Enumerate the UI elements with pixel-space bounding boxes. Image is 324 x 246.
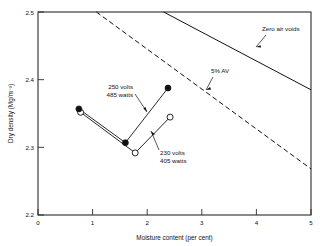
figure-container: 0 1 2 3 4 5 2.2 2.3 2.4 2.5 Moisture con… bbox=[0, 0, 324, 246]
x-tick-label: 3 bbox=[200, 219, 204, 226]
x-tick-labels: 0 1 2 3 4 5 bbox=[36, 219, 313, 226]
y-tick-label: 2.2 bbox=[25, 211, 34, 218]
annotation-250v-line1: 250 volts bbox=[108, 83, 133, 90]
x-tick-label: 2 bbox=[145, 219, 149, 226]
chart-svg: 0 1 2 3 4 5 2.2 2.3 2.4 2.5 Moisture con… bbox=[0, 0, 324, 246]
x-axis-title: Moisture content (per cent) bbox=[136, 234, 212, 242]
x-tick-label: 5 bbox=[309, 219, 313, 226]
data-point-filled bbox=[76, 106, 82, 112]
data-point-filled bbox=[165, 85, 171, 91]
data-point-filled bbox=[122, 140, 128, 146]
annotation-5av-text: 5% AV bbox=[211, 67, 230, 74]
series-230v-line bbox=[81, 112, 171, 153]
y-axis-title: Dry density (Mg/m⁻³) bbox=[7, 84, 15, 143]
x-tick-label: 0 bbox=[36, 219, 40, 226]
annotation-zero-air-voids: Zero air voids bbox=[256, 25, 299, 48]
annotation-230v: 230 volts 405 watts bbox=[151, 131, 186, 164]
annotation-250v: 250 volts 485 watts bbox=[107, 83, 147, 112]
x-axis-ticks bbox=[38, 209, 311, 215]
x-tick-label: 1 bbox=[91, 219, 95, 226]
annotation-five-percent-av: 5% AV bbox=[206, 67, 230, 90]
y-tick-label: 2.4 bbox=[25, 76, 34, 83]
annotation-230v-line1: 230 volts bbox=[160, 149, 185, 156]
y-tick-labels: 2.2 2.3 2.4 2.5 bbox=[25, 9, 34, 219]
y-tick-label: 2.3 bbox=[25, 144, 34, 151]
annotation-250v-line2: 485 watts bbox=[107, 91, 133, 98]
data-point-open bbox=[167, 114, 173, 120]
annotation-zav-text: Zero air voids bbox=[262, 25, 299, 32]
y-axis-ticks bbox=[38, 12, 44, 215]
annotation-230v-line2: 405 watts bbox=[160, 157, 186, 164]
y-tick-label: 2.5 bbox=[25, 9, 34, 16]
x-tick-label: 4 bbox=[255, 219, 259, 226]
zero-air-voids-line bbox=[164, 12, 311, 90]
data-point-open bbox=[132, 150, 138, 156]
